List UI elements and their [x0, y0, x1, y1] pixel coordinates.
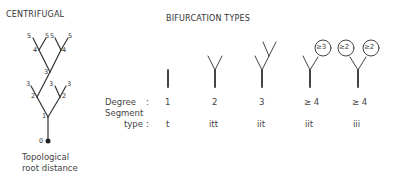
segment-type-value: iit: [257, 119, 265, 129]
degree-value: ≥ 4: [352, 97, 367, 107]
node-label-2-right: 2: [62, 92, 66, 100]
glyph3-branch: [255, 56, 262, 70]
degree-value: 2: [212, 97, 217, 107]
glyph4-branch: [310, 57, 318, 70]
node-label-3-mid: 3: [44, 68, 48, 76]
glyph2-branch: [215, 56, 222, 70]
circle-label: ≥2: [364, 43, 374, 51]
degree-label: Degree: [105, 97, 136, 107]
glyph3-branch: [269, 42, 276, 56]
type-colon: :: [146, 119, 149, 129]
node-label-1: 1: [42, 112, 46, 120]
degree-value: ≥ 4: [304, 97, 319, 107]
node-label-4-left: 4: [33, 46, 37, 54]
node-label-5-a: 5: [27, 32, 31, 40]
glyph2-branch: [208, 56, 215, 70]
node-label-5-d: 5: [68, 32, 72, 40]
glyph4-branch: [303, 56, 310, 70]
segment-type-value: iit: [305, 119, 313, 129]
segment-type-value: iii: [353, 119, 360, 129]
segment-type-value: t: [166, 119, 169, 129]
glyph5-branch: [358, 57, 366, 70]
node-label-5-b: 5: [45, 32, 49, 40]
segment-label: Segment: [105, 108, 143, 118]
circle-label: ≥3: [316, 43, 326, 51]
circle-label: ≥2: [339, 43, 349, 51]
node-label-2-left: 2: [31, 92, 35, 100]
tree-edge: [55, 86, 60, 97]
glyph3-branch: [263, 42, 269, 56]
glyph3-branch: [262, 56, 269, 70]
degree-value: 1: [165, 97, 170, 107]
type-label: type: [124, 119, 143, 129]
node-label-root: 0: [39, 137, 43, 145]
node-label-5-c: 5: [50, 32, 54, 40]
node-label-3-b: 3: [49, 80, 53, 88]
glyph5-branch: [350, 57, 358, 70]
node-label-3-c: 3: [67, 80, 71, 88]
diagram-canvas: [0, 0, 399, 177]
caption-line1: Topological: [22, 152, 69, 162]
node-label-3-a: 3: [26, 80, 30, 88]
tree-edge: [55, 38, 61, 50]
caption-line2: root distance: [22, 163, 78, 173]
degree-colon: :: [146, 97, 149, 107]
node-label-4-right: 4: [62, 46, 66, 54]
root-dot: [46, 139, 51, 144]
tree-edge: [48, 97, 60, 117]
segment-type-value: itt: [209, 119, 218, 129]
degree-value: 3: [259, 97, 264, 107]
bifurcation-types-title: BIFURCATION TYPES: [166, 14, 250, 23]
tree-edge: [50, 50, 61, 72]
